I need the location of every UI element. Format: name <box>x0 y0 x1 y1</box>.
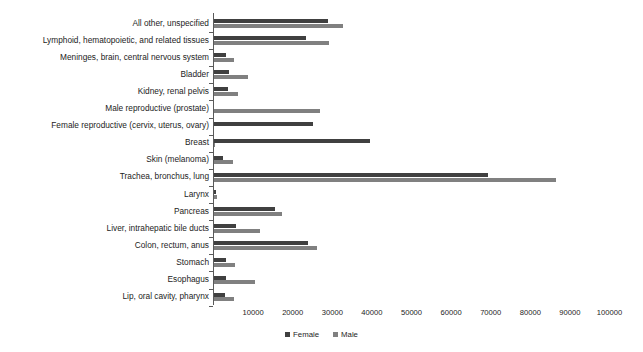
bar-male <box>214 41 330 45</box>
category-label: Breast <box>0 137 209 147</box>
y-axis-tick <box>209 220 213 221</box>
y-axis-tick <box>209 306 213 307</box>
category-label: Stomach <box>0 257 209 267</box>
bar-female <box>214 258 227 262</box>
y-axis-tick <box>209 237 213 238</box>
bar-female <box>214 70 230 74</box>
bar-male <box>214 297 235 301</box>
category-label: Lymphoid, hematopoietic, and related tis… <box>0 35 209 45</box>
y-axis-tick <box>209 152 213 153</box>
bar-female <box>214 293 225 297</box>
category-label: Liver, intrahepatic bile ducts <box>0 223 209 233</box>
category-label: Skin (melanoma) <box>0 154 209 164</box>
bar-female <box>214 19 328 23</box>
y-axis-tick <box>209 135 213 136</box>
bar-male <box>214 212 282 216</box>
bar-male <box>214 75 248 79</box>
y-axis-tick <box>209 271 213 272</box>
category-label: All other, unspecified <box>0 18 209 28</box>
x-tick-label: 70000 <box>480 308 501 317</box>
bar-female <box>214 276 226 280</box>
x-tick-label: 100000 <box>597 308 622 317</box>
bar-male <box>214 24 343 28</box>
category-label: Colon, rectum, anus <box>0 240 209 250</box>
legend-swatch-icon <box>333 332 338 337</box>
y-axis-tick <box>209 186 213 187</box>
x-tick-label: 10000 <box>243 308 264 317</box>
bar-male <box>214 246 317 250</box>
x-tick-label: 30000 <box>322 308 343 317</box>
bar-female <box>214 87 228 91</box>
legend-swatch-icon <box>285 332 290 337</box>
y-axis-tick <box>209 203 213 204</box>
y-axis-tick <box>209 118 213 119</box>
y-axis-tick <box>209 49 213 50</box>
bar-female <box>214 139 370 143</box>
bar-female <box>214 36 306 40</box>
bar-male <box>214 143 216 147</box>
y-axis-tick <box>209 289 213 290</box>
category-label: Lip, oral cavity, pharynx <box>0 291 209 301</box>
chart-legend: FemaleMale <box>0 330 643 339</box>
bar-female <box>214 241 309 245</box>
category-label: Larynx <box>0 189 209 199</box>
x-tick-label: 50000 <box>401 308 422 317</box>
category-label: Trachea, bronchus, lung <box>0 171 209 181</box>
bar-female <box>214 122 313 126</box>
legend-item-male[interactable]: Male <box>333 330 358 339</box>
bar-male <box>214 229 261 233</box>
category-label: Kidney, renal pelvis <box>0 86 209 96</box>
category-label: Pancreas <box>0 206 209 216</box>
bar-male <box>214 280 255 284</box>
bar-male <box>214 160 234 164</box>
category-label: Female reproductive (cervix, uterus, ova… <box>0 120 209 130</box>
plot-area: All other, unspecifiedLymphoid, hematopo… <box>0 0 643 352</box>
x-tick-label: 80000 <box>520 308 541 317</box>
y-axis-tick <box>209 83 213 84</box>
x-tick-label: 90000 <box>559 308 580 317</box>
bar-female <box>214 207 275 211</box>
bar-female <box>214 53 226 57</box>
bar-male <box>214 195 218 199</box>
category-label: Esophagus <box>0 274 209 284</box>
category-label: Meninges, brain, central nervous system <box>0 52 209 62</box>
category-label: Bladder <box>0 69 209 79</box>
y-axis-tick <box>209 66 213 67</box>
legend-label: Female <box>293 330 319 339</box>
bar-male <box>214 92 239 96</box>
x-tick-label: 40000 <box>361 308 382 317</box>
bar-female <box>214 224 236 228</box>
category-label: Male reproductive (prostate) <box>0 103 209 113</box>
x-tick-label: 20000 <box>282 308 303 317</box>
bar-male <box>214 263 235 267</box>
bar-female <box>214 173 488 177</box>
legend-item-female[interactable]: Female <box>285 330 319 339</box>
legend-label: Male <box>341 330 358 339</box>
y-axis-tick <box>209 169 213 170</box>
y-axis-tick <box>209 32 213 33</box>
bar-female <box>214 190 216 194</box>
bar-male <box>214 58 234 62</box>
bar-female <box>214 156 223 160</box>
y-axis-tick <box>209 100 213 101</box>
bar-male <box>214 178 557 182</box>
y-axis-tick <box>209 254 213 255</box>
bar-male <box>214 109 321 113</box>
bar-chart: All other, unspecifiedLymphoid, hematopo… <box>0 0 643 352</box>
x-tick-label: 60000 <box>441 308 462 317</box>
